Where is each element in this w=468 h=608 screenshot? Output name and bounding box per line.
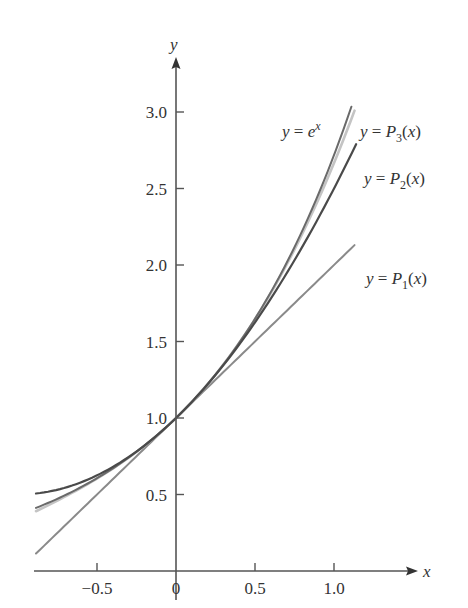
taylor-polynomial-chart: −0.500.51.0 0.51.01.52.02.53.0 x y y = P… bbox=[0, 0, 468, 608]
curve-labels: y = P1(x)y = P2(x)y = P3(x)y = ex bbox=[280, 119, 427, 292]
y-tick-label: 2.5 bbox=[146, 180, 167, 199]
curves bbox=[36, 107, 356, 554]
x-ticks: −0.500.51.0 bbox=[82, 563, 345, 598]
curve-y-p2-x- bbox=[36, 144, 356, 493]
axes: −0.500.51.0 0.51.01.52.02.53.0 x y bbox=[34, 35, 431, 600]
y-tick-label: 1.5 bbox=[146, 333, 167, 352]
y-ticks: 0.51.01.52.02.53.0 bbox=[146, 103, 184, 505]
x-tick-label: 0 bbox=[172, 579, 181, 598]
curve-label: y = P2(x) bbox=[362, 169, 425, 192]
curve-y-p3-x- bbox=[36, 111, 355, 512]
y-tick-label: 2.0 bbox=[146, 256, 167, 275]
x-tick-label: 1.0 bbox=[323, 579, 344, 598]
x-axis-label: x bbox=[422, 562, 431, 581]
curve-label: y = ex bbox=[280, 119, 321, 141]
x-tick-label: 0.5 bbox=[244, 579, 265, 598]
y-tick-label: 0.5 bbox=[146, 486, 167, 505]
curve-y-e-x bbox=[36, 107, 351, 508]
y-tick-label: 1.0 bbox=[146, 409, 167, 428]
y-tick-label: 3.0 bbox=[146, 103, 167, 122]
x-tick-label: −0.5 bbox=[82, 579, 113, 598]
y-axis-label: y bbox=[168, 35, 178, 54]
curve-label: y = P3(x) bbox=[358, 122, 421, 145]
curve-label: y = P1(x) bbox=[364, 269, 427, 292]
